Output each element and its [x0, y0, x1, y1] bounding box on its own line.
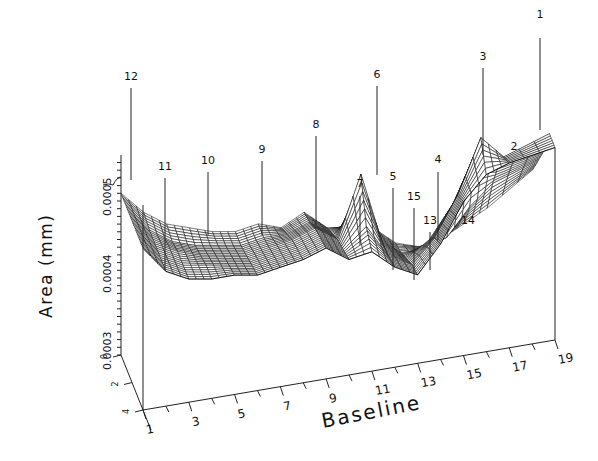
mesh-cell	[222, 236, 231, 238]
depth-tick	[135, 410, 143, 412]
depth-tick-label: 2	[111, 381, 120, 386]
peak-label: 12	[124, 70, 138, 83]
mesh-cell	[232, 241, 241, 243]
mesh-cell	[213, 232, 222, 234]
x-tick	[235, 394, 238, 403]
mesh-cell	[201, 272, 210, 274]
x-tick	[257, 391, 260, 397]
peak-label: 8	[313, 118, 320, 131]
y-axis-label: Area (mm)	[36, 214, 56, 318]
y-tick-label: 0.0005	[101, 178, 114, 217]
x-tick	[143, 410, 146, 419]
x-tick	[303, 383, 306, 389]
x-tick-label: 15	[465, 366, 483, 383]
mesh-cell	[215, 239, 224, 241]
peak-label: 3	[480, 50, 487, 63]
x-tick-label: 13	[420, 374, 438, 391]
mesh-cell	[214, 236, 223, 238]
x-tick	[555, 340, 558, 349]
peak-label: 11	[158, 160, 172, 173]
mesh-cell	[229, 234, 238, 236]
mesh-cell	[186, 272, 195, 274]
mesh-cell	[214, 234, 223, 236]
y-tick-label: 0.0004	[101, 255, 114, 294]
x-tick-label: 1	[145, 422, 155, 437]
mesh-cell	[195, 274, 204, 276]
x-tick	[532, 344, 535, 350]
mesh-cell	[210, 243, 219, 246]
x-tick-label: 3	[191, 414, 201, 429]
peak-label: 9	[259, 143, 266, 156]
peak-label: 2	[511, 140, 518, 153]
peak-label: 14	[461, 214, 475, 227]
x-tick	[441, 359, 444, 365]
mesh-cell	[200, 268, 209, 270]
mesh-cell	[220, 232, 229, 234]
peak-label: 15	[407, 190, 421, 203]
x-tick	[326, 379, 329, 388]
mesh-cell	[194, 272, 203, 274]
mesh-cell	[223, 239, 232, 241]
mesh-cell	[200, 270, 209, 272]
mesh-cell	[187, 274, 196, 276]
x-tick	[372, 371, 375, 380]
mesh-cell	[194, 243, 203, 246]
mesh-cell	[191, 265, 200, 267]
depth-axis	[121, 355, 151, 430]
x-tick-label: 5	[236, 406, 246, 421]
mesh-cell	[182, 263, 191, 265]
mesh-cell	[224, 241, 233, 243]
x-tick	[280, 387, 283, 396]
peak-label: 10	[201, 154, 215, 167]
peak-label: 13	[423, 214, 437, 227]
x-tick	[395, 367, 398, 373]
mesh-cell	[192, 268, 201, 270]
mesh-cell	[202, 243, 211, 246]
wireframe-surface	[121, 134, 555, 279]
surface-chart: 0.00030.00040.0005024135791113151719 123…	[0, 0, 598, 461]
mesh-cell	[232, 243, 241, 245]
x-tick-label: 19	[557, 350, 575, 367]
x-tick-label: 7	[282, 398, 292, 413]
mesh-cell	[217, 243, 226, 245]
x-tick	[166, 406, 169, 412]
peak-label: 1	[537, 8, 544, 21]
mesh-cell	[202, 274, 211, 276]
peak-label: 6	[374, 68, 381, 81]
mesh-cell	[183, 265, 192, 267]
mesh-cell	[231, 239, 240, 241]
x-tick	[189, 402, 192, 411]
depth-tick-label: 4	[122, 409, 131, 414]
mesh-cell	[225, 243, 234, 245]
y-tick-label: 0.0003	[101, 332, 114, 371]
depth-tick	[124, 383, 132, 385]
peak-label: 4	[435, 153, 442, 166]
chart-canvas: 0.00030.00040.0005024135791113151719 123…	[0, 0, 598, 461]
mesh-cell	[185, 270, 194, 272]
x-tick	[463, 356, 466, 365]
mesh-cell	[216, 241, 225, 243]
x-tick	[418, 363, 421, 372]
mesh-cell	[230, 236, 239, 238]
x-tick	[486, 352, 489, 358]
peak-label: 5	[390, 170, 397, 183]
mesh-cell	[193, 270, 202, 272]
x-tick	[349, 375, 352, 381]
depth-tick-label: 0	[100, 354, 109, 359]
x-tick	[509, 348, 512, 357]
mesh-cell	[228, 232, 237, 234]
x-tick-label: 17	[511, 358, 529, 375]
mesh-cell	[221, 234, 230, 236]
peak-label: 7	[357, 177, 364, 190]
x-tick	[212, 398, 215, 404]
x-tick-label: 9	[328, 391, 338, 406]
mesh-cell	[199, 265, 208, 267]
